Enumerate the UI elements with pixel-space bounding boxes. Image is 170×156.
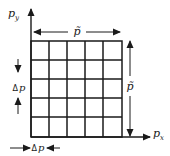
- width-label: p̃: [73, 25, 80, 38]
- cell-width-label: Δp: [32, 142, 45, 153]
- grid: [31, 41, 122, 137]
- x-axis-label: px: [153, 127, 164, 142]
- y-axis-label: py: [8, 7, 20, 22]
- height-dimension: p̃: [126, 41, 133, 136]
- height-label: p̃: [126, 80, 133, 93]
- cell-height-dimension: Δp: [13, 59, 26, 114]
- cell-width-dimension: Δp: [10, 142, 60, 153]
- x-axis: px: [31, 127, 164, 142]
- grid-border: [31, 41, 122, 137]
- width-dimension: p̃: [34, 25, 120, 38]
- phase-space-grid-diagram: py px p̃ p̃ Δp Δp: [0, 0, 170, 156]
- cell-height-label: Δp: [13, 82, 26, 93]
- y-axis: py: [8, 7, 31, 137]
